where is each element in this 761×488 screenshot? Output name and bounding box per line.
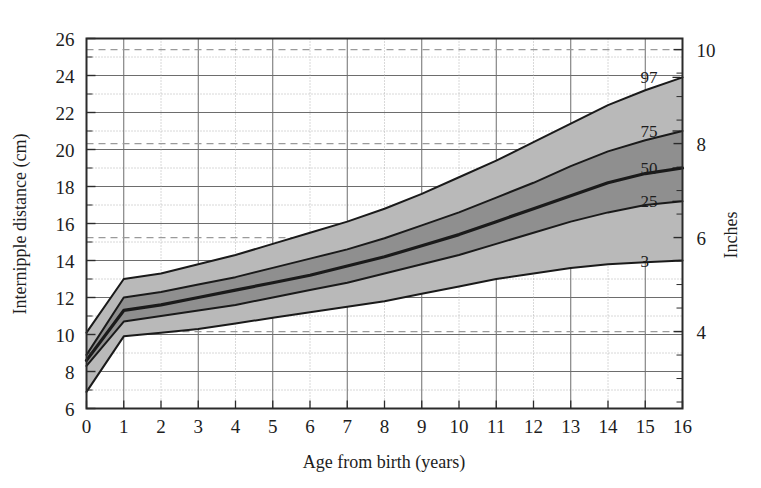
x-tick-label: 13 (561, 416, 580, 437)
y-tick-label: 18 (56, 177, 75, 198)
x-tick-label: 4 (231, 416, 241, 437)
x-tick-label: 11 (487, 416, 505, 437)
percentile-label-50: 50 (641, 159, 658, 178)
y-tick-label: 10 (56, 325, 75, 346)
x-tick-label: 5 (268, 416, 278, 437)
x-tick-label: 15 (636, 416, 655, 437)
percentile-label-3: 3 (641, 252, 650, 271)
y-tick-label: 26 (56, 29, 75, 50)
x-tick-label: 0 (82, 416, 92, 437)
x-tick-label: 14 (599, 416, 619, 437)
x-tick-label: 2 (156, 416, 166, 437)
growth-chart: 68101214161820222426 46810 0123456789101… (0, 0, 761, 488)
x-tick-label: 8 (380, 416, 390, 437)
x-tick-label: 16 (673, 416, 692, 437)
percentile-label-75: 75 (641, 122, 658, 141)
y2-axis-title: Inches (721, 212, 741, 259)
y-tick-label: 6 (65, 399, 75, 420)
x-tick-label: 12 (524, 416, 543, 437)
y2-tick-label: 8 (697, 134, 707, 155)
x-tick-label: 3 (194, 416, 204, 437)
y-tick-label: 8 (65, 362, 75, 383)
y-tick-label: 22 (56, 103, 75, 124)
y-tick-label: 16 (56, 214, 75, 235)
x-tick-label: 9 (417, 416, 427, 437)
y-tick-label: 14 (56, 251, 76, 272)
y-tick-label: 20 (56, 140, 75, 161)
chart-canvas: 68101214161820222426 46810 0123456789101… (0, 0, 761, 488)
x-axis-title: Age from birth (years) (303, 452, 465, 473)
x-tick-label: 7 (343, 416, 353, 437)
y2-tick-label: 4 (697, 322, 707, 343)
x-tick-label: 10 (450, 416, 469, 437)
y2-tick-label: 10 (697, 40, 716, 61)
percentile-label-25: 25 (641, 192, 658, 211)
percentile-label-97: 97 (641, 68, 659, 87)
y-tick-label: 12 (56, 288, 75, 309)
x-tick-label: 6 (305, 416, 315, 437)
y-tick-label: 24 (56, 66, 76, 87)
y2-tick-label: 6 (697, 228, 707, 249)
y-axis-title: Internipple distance (cm) (10, 134, 31, 315)
x-tick-label: 1 (119, 416, 129, 437)
